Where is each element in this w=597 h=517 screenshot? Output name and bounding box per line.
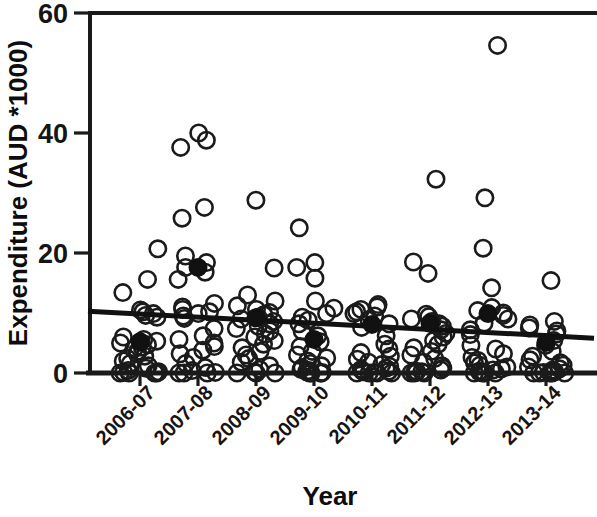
mean-marker — [364, 316, 380, 332]
mean-marker — [306, 331, 322, 347]
mean-marker — [190, 259, 206, 275]
mean-marker — [480, 305, 496, 321]
mean-marker — [248, 310, 264, 326]
mean-marker — [538, 334, 554, 350]
chart-canvas: 0204060 2006-072007-082008-092009-102010… — [0, 0, 597, 517]
y-axis-title: Expenditure (AUD *1000) — [3, 40, 33, 346]
y-tick-label-0: 0 — [53, 359, 68, 389]
x-axis-title: Year — [303, 481, 358, 511]
mean-marker — [422, 315, 438, 331]
y-tick-label-20: 20 — [38, 239, 68, 269]
scatter-plot-figure: 0204060 2006-072007-082008-092009-102010… — [0, 0, 597, 517]
y-tick-label-40: 40 — [38, 119, 68, 149]
y-tick-label-60: 60 — [38, 0, 68, 29]
mean-marker — [132, 334, 148, 350]
